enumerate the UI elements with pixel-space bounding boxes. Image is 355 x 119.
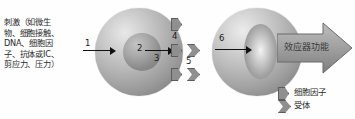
step-label-4: 4	[172, 31, 177, 41]
legend-item-cytokine: 细胞因子	[277, 86, 326, 99]
cytokine-icon	[171, 18, 182, 31]
step-label-6: 6	[219, 33, 224, 43]
diagram-canvas: 刺激（如微生 物、细胞接触、 DNA、细胞因 子、抗体或IC、 剪应力、压力） …	[0, 0, 355, 119]
stimulus-text-block: 刺激（如微生 物、细胞接触、 DNA、细胞因 子、抗体或IC、 剪应力、压力）	[4, 17, 88, 70]
step-label-3: 3	[154, 53, 159, 63]
effector-function-label: 效应器功能	[284, 40, 329, 53]
stimulus-input-arrow	[83, 50, 111, 51]
legend: 细胞因子 受体	[277, 86, 326, 112]
legend-item-receptor: 受体	[277, 99, 326, 112]
cytokine-icon	[171, 68, 182, 81]
receptor-icon	[187, 68, 200, 81]
cytokine-icon	[277, 87, 289, 98]
legend-label-receptor: 受体	[294, 100, 310, 111]
receptor-icon	[187, 44, 200, 57]
cytokine-output-arrow	[145, 50, 169, 51]
signal-to-nucleus-arrow	[215, 49, 247, 50]
receptor-icon	[277, 100, 289, 111]
step-label-1: 1	[85, 38, 90, 48]
step-label-2: 2	[137, 43, 142, 53]
step-label-5: 5	[186, 56, 191, 66]
legend-label-cytokine: 细胞因子	[294, 87, 326, 98]
